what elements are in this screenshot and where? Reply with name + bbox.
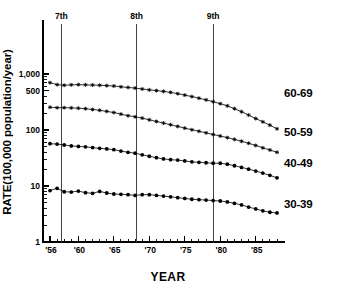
data-point	[105, 109, 109, 113]
data-point	[183, 126, 187, 130]
data-point	[204, 98, 208, 102]
data-point	[112, 84, 116, 88]
data-point	[48, 81, 52, 85]
data-point	[225, 162, 229, 166]
y-tick-label: 1	[35, 237, 40, 247]
data-point	[247, 141, 251, 145]
data-point	[48, 142, 52, 146]
x-tick-label: '75	[180, 245, 192, 255]
data-point	[140, 116, 144, 120]
x-axis-title: YEAR	[151, 270, 186, 284]
data-point	[105, 147, 109, 151]
data-point	[204, 131, 208, 135]
data-point	[190, 95, 194, 99]
data-point	[247, 113, 251, 117]
data-point	[48, 105, 52, 109]
data-point	[176, 92, 180, 96]
data-point	[48, 189, 52, 193]
line-chart: 7th8th9th 1101005001,000'56'60'65'70'75'…	[0, 0, 344, 288]
series-label-30-39: 30-39	[284, 198, 312, 210]
data-point	[133, 115, 137, 119]
x-tick-label: '60	[74, 245, 86, 255]
data-point	[69, 106, 73, 110]
data-point	[147, 88, 151, 92]
data-point	[254, 143, 258, 147]
data-point	[183, 197, 187, 201]
data-point	[98, 190, 102, 194]
data-point	[98, 108, 102, 112]
data-point	[154, 119, 158, 123]
data-point	[147, 118, 151, 122]
data-point	[218, 102, 222, 106]
data-point	[261, 171, 265, 175]
data-point	[190, 128, 194, 132]
data-point	[98, 83, 102, 87]
data-point	[76, 144, 80, 148]
data-point	[119, 85, 123, 89]
series-label-50-59: 50-59	[284, 126, 312, 138]
data-point	[275, 150, 279, 154]
data-point	[225, 104, 229, 108]
data-point	[91, 146, 95, 150]
data-point	[240, 110, 244, 114]
data-point	[112, 192, 116, 196]
data-point	[169, 195, 173, 199]
y-tick-label: 100	[26, 125, 40, 135]
data-point	[162, 194, 166, 198]
data-point	[162, 121, 166, 125]
chart-figure: 7th8th9th 1101005001,000'56'60'65'70'75'…	[0, 0, 344, 288]
data-point	[211, 133, 215, 137]
data-point	[268, 210, 272, 214]
data-point	[261, 120, 265, 124]
data-point	[218, 134, 222, 138]
revision-label-7th: 7th	[55, 11, 68, 21]
data-point	[176, 158, 180, 162]
data-point	[176, 196, 180, 200]
data-point	[126, 114, 130, 118]
data-point	[154, 89, 158, 93]
data-point	[211, 199, 215, 203]
data-point	[84, 191, 88, 195]
data-point	[232, 107, 236, 111]
data-point	[176, 124, 180, 128]
data-point	[133, 86, 137, 90]
data-point	[126, 85, 130, 89]
data-point	[169, 123, 173, 127]
data-point	[162, 89, 166, 93]
data-point	[105, 84, 109, 88]
data-point	[83, 107, 87, 111]
data-point	[105, 191, 109, 195]
data-point	[275, 211, 279, 215]
data-point	[169, 90, 173, 94]
series-label-40-49: 40-49	[284, 157, 312, 169]
series-path	[50, 107, 277, 152]
data-point	[69, 144, 73, 148]
data-point	[218, 199, 222, 203]
data-point	[69, 190, 73, 194]
data-point	[155, 156, 159, 160]
x-tick-label: '65	[109, 245, 121, 255]
series-label-60-69: 60-69	[284, 87, 312, 99]
data-point	[126, 150, 130, 154]
data-point	[268, 148, 272, 152]
data-point	[240, 139, 244, 143]
data-point	[275, 176, 279, 180]
data-point	[261, 209, 265, 213]
y-tick-label: 1,000	[19, 69, 41, 79]
y-axis-title: RATE(100,000 population/year)	[1, 49, 13, 215]
data-point	[140, 87, 144, 91]
data-point	[119, 149, 123, 153]
data-point	[247, 205, 251, 209]
data-point	[211, 161, 215, 165]
data-point	[190, 197, 194, 201]
data-point	[119, 112, 123, 116]
data-point	[254, 117, 258, 121]
data-point	[211, 100, 215, 104]
data-point	[69, 83, 73, 87]
data-point	[55, 106, 59, 110]
x-tick-label: '56	[45, 245, 57, 255]
data-point	[76, 83, 80, 87]
y-tick-label: 500	[26, 86, 40, 96]
y-tick-label: 10	[31, 181, 41, 191]
x-tick-label: '80	[216, 245, 228, 255]
